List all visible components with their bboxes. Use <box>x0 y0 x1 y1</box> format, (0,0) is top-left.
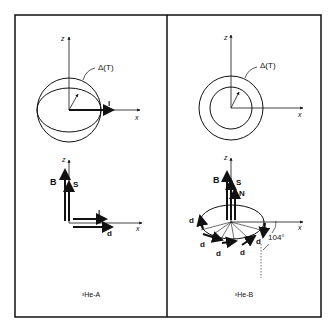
x-axis-label: x <box>297 224 302 231</box>
gap-label: Δ(T) <box>98 63 114 72</box>
d-label: d <box>240 248 245 257</box>
superfluid-he3-diagram: z x Δ(T) l z x B S l d ³He-A z x Δ(T) <box>0 0 333 329</box>
panel-b-vector-diagram: z x B S N d d d d d 104° <box>189 154 303 278</box>
N-label: N <box>239 189 245 198</box>
panel-b-caption: ³He-B <box>235 291 254 298</box>
d-label: d <box>216 249 221 258</box>
z-axis-label: z <box>223 34 228 41</box>
l-label: l <box>98 208 100 217</box>
S-label: S <box>73 180 79 189</box>
z-axis-label: z <box>223 154 228 161</box>
panel-a-gap-diagram: z x Δ(T) l <box>37 35 140 142</box>
panel-a-vector-diagram: z x B S l d <box>50 156 142 238</box>
x-axis-label: x <box>297 111 302 118</box>
d-label: d <box>189 216 194 225</box>
x-axis-label: x <box>135 225 140 232</box>
B-label: B <box>213 175 220 185</box>
gap-label: Δ(T) <box>260 61 276 70</box>
x-axis-label: x <box>134 114 139 121</box>
d-label: d <box>200 240 205 249</box>
angle-label: 104° <box>268 233 285 242</box>
l-vector-label: l <box>108 99 110 108</box>
z-axis-label: z <box>60 35 65 42</box>
panel-a-caption: ³He-A <box>82 291 101 298</box>
panel-b-gap-diagram: z x Δ(T) <box>199 34 303 140</box>
z-axis-label: z <box>61 156 66 163</box>
d-label: d <box>107 229 112 238</box>
S-label: S <box>236 178 242 187</box>
B-label: B <box>50 177 57 187</box>
d-label: d <box>256 237 261 246</box>
